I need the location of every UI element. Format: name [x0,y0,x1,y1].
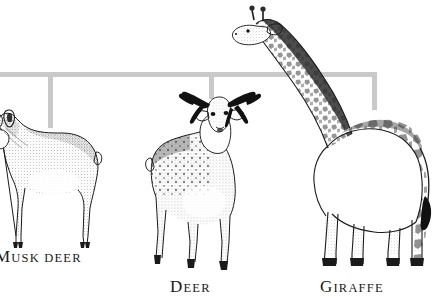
taxon-label-deer-initial: D [170,277,183,296]
musk-deer-illustration [0,108,113,250]
taxon-label-giraffe-initial: G [320,277,333,296]
taxon-label-giraffe-rest: IRAFFE [333,281,383,295]
giraffe-illustration [232,0,432,270]
taxon-label-giraffe: GIRAFFE [320,278,384,295]
taxon-label-deer: DEER [170,278,211,295]
taxon-label-musk-deer-rest: USK DEER [11,251,81,265]
cladogram-figure: MUSK DEER DEER GIRAFFE [0,0,433,299]
taxon-label-musk-deer-initial: M [0,247,11,266]
taxon-label-musk-deer: MUSK DEER [0,248,82,265]
taxon-label-deer-rest: EER [183,281,210,295]
